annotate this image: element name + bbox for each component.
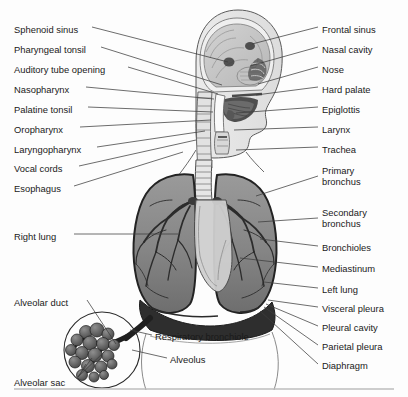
- label-left-palatine-tonsil: Palatine tonsil: [14, 104, 72, 115]
- label-left-esophagus: Esophagus: [14, 183, 61, 194]
- label-right-bronchioles: Bronchioles: [322, 242, 371, 253]
- label-right-nose: Nose: [322, 64, 344, 75]
- respiratory-system-figure: Sphenoid sinusPharyngeal tonsilAuditory …: [0, 0, 408, 397]
- label-right-trachea: Trachea: [322, 144, 357, 155]
- anatomy-illustration: Sphenoid sinusPharyngeal tonsilAuditory …: [0, 0, 408, 397]
- label-right-frontal-sinus: Frontal sinus: [322, 24, 376, 35]
- label-right-parietal-pleura: Parietal pleura: [322, 341, 383, 352]
- label-left-alveolar-sac: Alveolar sac: [14, 377, 65, 388]
- label-right-mediastinum: Mediastinum: [322, 263, 375, 274]
- label-left-sphenoid-sinus: Sphenoid sinus: [14, 24, 78, 35]
- label-right-diaphragm: Diaphragm: [322, 360, 368, 371]
- label-inset-alveolus: Alveolus: [170, 354, 206, 365]
- trachea: [195, 160, 212, 200]
- label-left-alveolar-duct: Alveolar duct: [14, 297, 69, 308]
- vertebral-column: [197, 92, 213, 168]
- label-left-pharyngeal-tonsil: Pharyngeal tonsil: [14, 44, 86, 55]
- label-left-vocal-cords: Vocal cords: [14, 163, 63, 174]
- label-right-epiglottis: Epiglottis: [322, 104, 360, 115]
- label-right-nasal-cavity: Nasal cavity: [322, 44, 373, 55]
- label-right-pleural-cavity: Pleural cavity: [322, 322, 378, 333]
- label-right-hard-palate: Hard palate: [322, 84, 370, 95]
- label-left-right-lung: Right lung: [14, 231, 56, 242]
- label-left-auditory-tube-opening: Auditory tube opening: [14, 64, 105, 75]
- label-right-visceral-pleura: Visceral pleura: [322, 303, 385, 314]
- label-left-nasopharynx: Nasopharynx: [14, 84, 70, 95]
- label-left-oropharynx: Oropharynx: [14, 124, 63, 135]
- label-left-laryngopharynx: Laryngopharynx: [14, 144, 82, 155]
- label-right-larynx: Larynx: [322, 124, 350, 135]
- label-right-secondary-bronchus: Secondarybronchus: [322, 207, 367, 229]
- label-right-left-lung: Left lung: [322, 284, 358, 295]
- label-inset-respiratory-bronchiole: Respiratory bronchiole: [155, 331, 249, 342]
